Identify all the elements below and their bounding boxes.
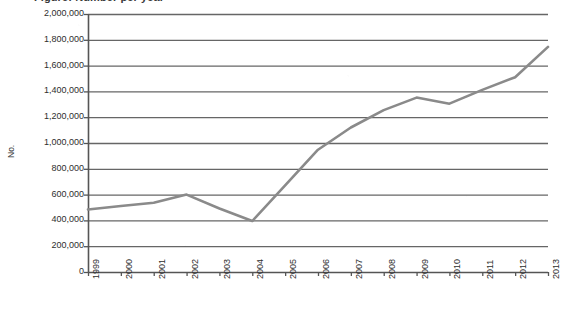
x-tick-label: 2009 (421, 259, 430, 279)
x-tick-label: 2002 (191, 259, 200, 279)
x-axis-tick-labels: 1999200020012002200320042005200620072008… (0, 0, 562, 316)
x-tick-label: 1999 (92, 259, 101, 279)
x-tick-label: 2011 (486, 260, 495, 279)
x-tick-label: 2010 (453, 259, 462, 279)
x-tick-label: 2008 (388, 259, 397, 279)
x-tick-label: 2012 (519, 259, 528, 279)
chart-figure: Figure: Number per year No. 2,000,0001,8… (0, 0, 562, 316)
x-tick-label: 2003 (223, 259, 232, 279)
x-tick-label: 2001 (158, 259, 167, 279)
x-tick-label: 2006 (322, 259, 331, 279)
x-tick-label: 2004 (256, 259, 265, 279)
x-tick-label: 2007 (355, 259, 364, 279)
x-tick-label: 2000 (125, 259, 134, 279)
x-tick-label: 2005 (289, 259, 298, 279)
x-tick-label: 2013 (552, 259, 561, 279)
